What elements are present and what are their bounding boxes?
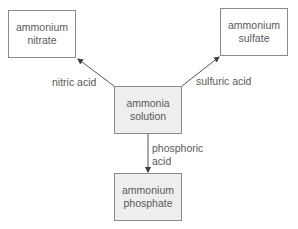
node-ammonium-sulfate: ammonium sulfate xyxy=(220,8,288,56)
edge-label-phosphoric-acid: phosphoric acid xyxy=(152,142,203,168)
node-label-line2: nitrate xyxy=(27,34,56,47)
edge-label-sulfuric-acid: sulfuric acid xyxy=(196,75,251,88)
edge-label-line1: phosphoric xyxy=(152,142,203,155)
node-ammonium-phosphate: ammonium phosphate xyxy=(114,173,182,221)
edge-label-nitric-acid: nitric acid xyxy=(52,76,96,89)
node-ammonia-solution: ammonia solution xyxy=(114,86,182,134)
node-label-line1: ammonium xyxy=(122,184,174,197)
node-label-line1: ammonia xyxy=(126,97,169,110)
node-label-line1: ammonium xyxy=(228,19,280,32)
node-label-line2: phosphate xyxy=(123,197,172,210)
node-label-line2: solution xyxy=(130,110,166,123)
edge-label-line2: acid xyxy=(152,155,203,168)
node-label-line1: ammonium xyxy=(16,21,68,34)
node-label-line2: sulfate xyxy=(239,32,270,45)
node-ammonium-nitrate: ammonium nitrate xyxy=(8,10,76,58)
